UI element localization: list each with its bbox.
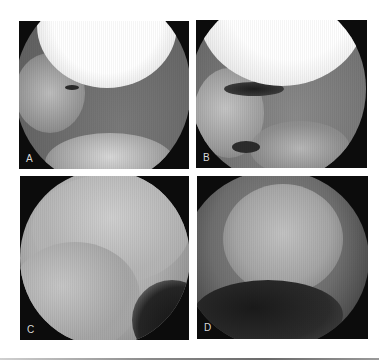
panel-a: A <box>19 21 189 169</box>
scanline-overlay <box>19 21 189 169</box>
panel-label-a: A <box>26 154 33 164</box>
scanline-overlay <box>196 20 367 168</box>
panel-d: D <box>197 176 368 339</box>
panel-label-d: D <box>204 323 211 333</box>
panel-b: B <box>196 20 367 168</box>
bottom-rule <box>0 358 379 360</box>
scanline-overlay <box>197 176 368 339</box>
scanline-overlay <box>20 176 189 340</box>
panel-label-c: C <box>27 325 34 335</box>
panel-label-b: B <box>203 153 210 163</box>
panel-c: C <box>20 176 189 340</box>
